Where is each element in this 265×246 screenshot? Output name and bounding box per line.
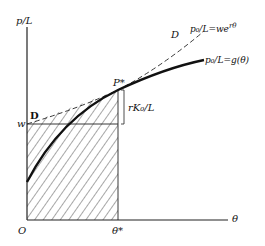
- rk-bracket: [121, 90, 124, 124]
- d-label-top: D: [171, 30, 179, 40]
- dashed-curve-label: p₀/L=werθ: [190, 23, 237, 34]
- p-star-label: P*: [113, 78, 125, 88]
- dashed-curve-label-main: p₀/L=we: [190, 24, 229, 34]
- diagram-canvas: [0, 0, 265, 246]
- y-axis-label: p/L: [16, 16, 32, 26]
- dashed-curve-label-sup: rθ: [229, 22, 237, 30]
- d-label-left: D: [30, 111, 39, 121]
- diagram: p/L O θ* θ w D P* rK₀/L D p₀/L=werθ p₀/L…: [0, 0, 265, 246]
- bracket-label: rK₀/L: [128, 103, 154, 113]
- origin-label: O: [18, 226, 26, 236]
- x-axis-label: θ: [232, 214, 238, 224]
- w-label: w: [17, 119, 26, 129]
- solid-curve-label: p₀/L=g(θ): [205, 56, 249, 65]
- theta-star-label: θ*: [112, 226, 123, 236]
- hatched-area: [27, 90, 118, 220]
